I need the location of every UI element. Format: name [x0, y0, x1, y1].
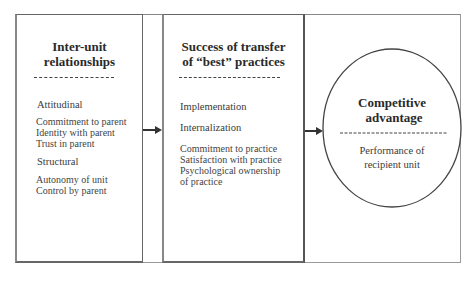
circle-item: Performance of [323, 145, 461, 156]
circle-title-line1: Competitive [323, 95, 461, 110]
competitive-advantage-circle [0, 0, 473, 282]
circle-title-line2: advantage [325, 110, 463, 125]
circle-item: recipient unit [323, 159, 461, 170]
